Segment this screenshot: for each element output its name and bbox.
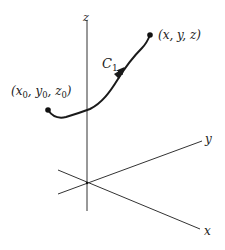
end-point-label: (x, y, z) xyxy=(158,29,201,41)
curve-label-subscript: 1 xyxy=(112,63,118,73)
start-label-close: ) xyxy=(67,84,72,98)
start-label-x: (x xyxy=(11,84,22,98)
y-axis xyxy=(58,141,202,194)
start-label-z: , z xyxy=(48,84,62,98)
start-point xyxy=(45,107,51,113)
y-axis-label: y xyxy=(205,133,212,145)
start-point-label: (x0, y0, z0) xyxy=(11,85,72,99)
diagram-canvas: z y x (x, y, z) C1 (x0, y0, z0) xyxy=(0,0,225,250)
curve-label-letter: C xyxy=(102,56,112,71)
x-axis xyxy=(58,170,200,229)
curve-c1 xyxy=(48,35,150,118)
x-axis-label: x xyxy=(204,225,211,237)
end-point xyxy=(147,32,153,38)
origin-point xyxy=(86,182,88,184)
curve-label: C1 xyxy=(102,57,118,73)
start-label-y: , y xyxy=(28,84,42,98)
z-axis-label: z xyxy=(83,12,89,23)
